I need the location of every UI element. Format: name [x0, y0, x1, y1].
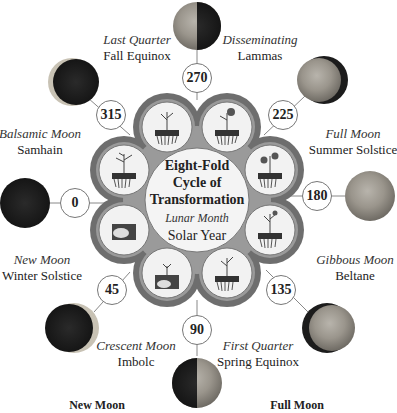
festival-name: Samhain [0, 142, 81, 158]
festival-name: Beltane [316, 268, 394, 284]
lobe-135 [202, 248, 252, 298]
moon-phase-name: Balsamic Moon [0, 126, 81, 142]
degree-badge-45: 45 [97, 275, 127, 305]
degree-badge-180: 180 [302, 181, 332, 211]
moon-new [0, 178, 50, 228]
degree-badge-315: 315 [96, 100, 126, 130]
degree-badge-90: 90 [182, 315, 212, 345]
moon-phase-name: Gibbous Moon [316, 252, 394, 268]
lobe-90 [142, 248, 192, 298]
moon-phase-name: Full Moon [309, 126, 397, 142]
phase-label-270: Last Quarter Fall Equinox [103, 32, 171, 64]
degree-badge-135: 135 [266, 275, 296, 305]
phase-label-0: New Moon Winter Solstice [2, 252, 82, 284]
festival-name: Summer Solstice [309, 142, 397, 158]
moon-gibbous [302, 303, 355, 353]
degree-badge-0: 0 [60, 188, 90, 218]
festival-name: Spring Equinox [217, 354, 299, 370]
phase-label-180: Full Moon Summer Solstice [309, 126, 397, 158]
phase-label-135: Gibbous Moon Beltane [316, 252, 394, 284]
moon-phase-name: Crescent Moon [96, 338, 175, 354]
moon-balsamic [48, 58, 99, 106]
festival-name: Lammas [222, 48, 297, 64]
lobe-0 [99, 145, 149, 195]
center-subtitle-lunar: Lunar Month [149, 210, 245, 227]
moon-first-quarter [172, 358, 222, 408]
lobe-180 [245, 205, 295, 255]
center-title-line-3: Transformation [149, 191, 245, 208]
degree-badge-270: 270 [182, 63, 212, 93]
festival-name: Fall Equinox [103, 48, 171, 64]
phase-label-315: Balsamic Moon Samhain [0, 126, 81, 158]
center-title-line-2: Cycle of [149, 174, 245, 191]
moon-phase-name: First Quarter [217, 338, 299, 354]
phase-label-225: Disseminating Lammas [222, 32, 297, 64]
bottom-label-full-moon: Full Moon [270, 398, 324, 413]
moon-phase-name: Last Quarter [103, 32, 171, 48]
moon-phase-name: New Moon [2, 252, 82, 268]
moon-full [345, 171, 395, 221]
lobe-270 [202, 102, 252, 152]
lobe-45 [99, 205, 149, 255]
degree-badge-225: 225 [268, 100, 298, 130]
lobe-225 [245, 145, 295, 195]
phase-label-45: Crescent Moon Imbolc [96, 338, 175, 370]
center-subtitle-solar: Solar Year [149, 227, 245, 244]
center-title-block: Eight-Fold Cycle of Transformation Lunar… [149, 157, 245, 244]
moon-last-quarter [173, 2, 221, 50]
center-title-line-1: Eight-Fold [149, 157, 245, 174]
lobe-315 [142, 102, 192, 152]
moon-crescent [45, 303, 99, 353]
phase-label-90: First Quarter Spring Equinox [217, 338, 299, 370]
festival-name: Winter Solstice [2, 268, 82, 284]
festival-name: Imbolc [96, 354, 175, 370]
bottom-label-new-moon: New Moon [69, 398, 125, 413]
moon-phase-name: Disseminating [222, 32, 297, 48]
